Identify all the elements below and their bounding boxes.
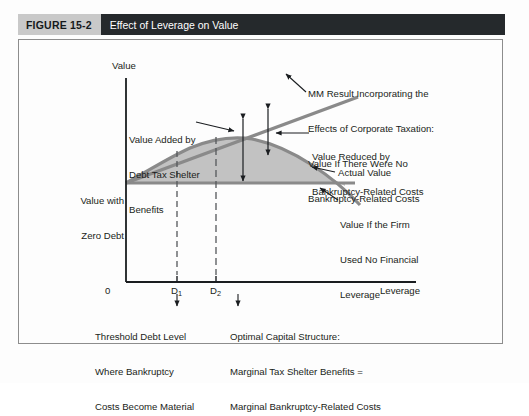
annotation-mm-line1: MM Result Incorporating the <box>308 88 434 100</box>
annotation-no-leverage-line1: Value If the Firm <box>340 219 418 231</box>
annotation-actual-value: Actual Value <box>338 167 391 179</box>
annotation-tax-shelter-line2: Debt Tax Shelter <box>129 169 200 181</box>
figure-header: FIGURE 15-2 Effect of Leverage on Value <box>18 14 505 35</box>
note-optimal-line3: Marginal Bankruptcy-Related Costs <box>230 401 381 413</box>
x-tick-d1-subscript: 1 <box>178 289 182 298</box>
x-tick-d2-subscript: 2 <box>217 289 221 298</box>
annotation-zero-debt-line2: Zero Debt <box>66 230 124 242</box>
x-tick-origin: 0 <box>105 285 110 297</box>
annotation-tax-shelter-line3: Benefits <box>129 204 200 216</box>
annotation-no-leverage-line2: Used No Financial <box>340 254 418 266</box>
y-axis-label: Value <box>112 60 136 72</box>
annotation-tax-shelter-line1: Value Added by <box>129 134 200 146</box>
note-threshold-line1: Threshold Debt Level <box>95 331 194 343</box>
annotation-reduced-line1: Value Reduced by <box>312 151 423 163</box>
x-tick-d2-base: D <box>210 285 217 296</box>
note-optimal-line1: Optimal Capital Structure: <box>230 331 381 343</box>
note-threshold-line2: Where Bankruptcy <box>95 366 194 378</box>
figure-number-badge: FIGURE 15-2 <box>18 14 101 35</box>
note-optimal-capital-structure: Optimal Capital Structure: Marginal Tax … <box>230 308 381 416</box>
x-tick-d1-base: D <box>171 285 178 296</box>
annotation-no-leverage-line3: Leverage <box>340 289 418 301</box>
x-tick-d1: D1 <box>171 285 182 300</box>
annotation-no-leverage: Value If the Firm Used No Financial Leve… <box>340 196 418 324</box>
note-threshold-line3: Costs Become Material <box>95 401 194 413</box>
x-tick-d2: D2 <box>210 285 221 300</box>
annotation-zero-debt-line1: Value with <box>66 195 124 207</box>
note-optimal-line2: Marginal Tax Shelter Benefits = <box>230 366 381 378</box>
annotation-zero-debt: Value with Zero Debt <box>66 172 124 265</box>
note-threshold-debt-level: Threshold Debt Level Where Bankruptcy Co… <box>95 308 194 416</box>
annotation-tax-shelter: Value Added by Debt Tax Shelter Benefits <box>129 111 200 239</box>
figure-title: Effect of Leverage on Value <box>101 14 505 35</box>
